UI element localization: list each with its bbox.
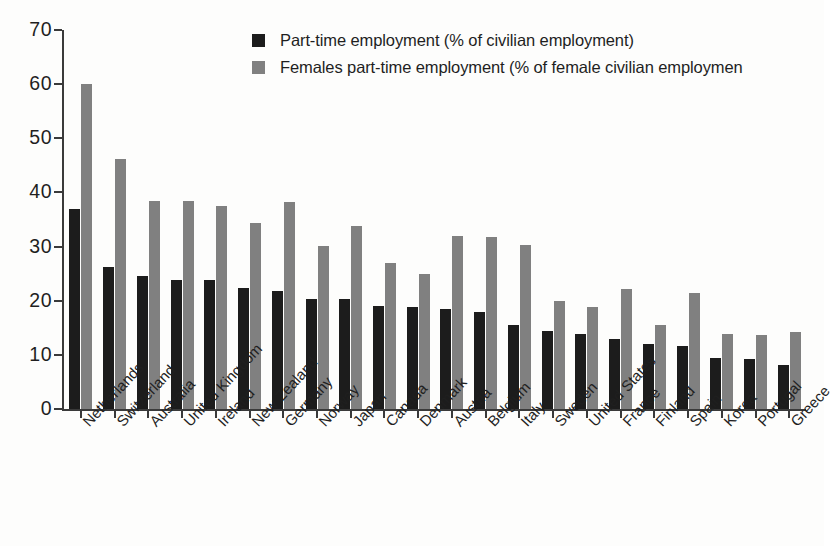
bar-females-part-time bbox=[486, 237, 497, 409]
y-axis-tick-label: 0 bbox=[12, 397, 52, 420]
x-axis-label-cell: Sweden bbox=[536, 414, 570, 544]
x-axis-label-cell: Greece bbox=[772, 414, 806, 544]
bar-group bbox=[199, 30, 233, 409]
bar-group bbox=[165, 30, 199, 409]
bar-group bbox=[671, 30, 705, 409]
x-axis-label-cell: France bbox=[604, 414, 638, 544]
x-axis-label-cell: Japan bbox=[334, 414, 368, 544]
bar-group bbox=[300, 30, 334, 409]
bar-group bbox=[368, 30, 402, 409]
x-axis-label-cell: Belgium bbox=[469, 414, 503, 544]
x-axis-label-cell: Korea bbox=[705, 414, 739, 544]
y-axis-tick-label: 40 bbox=[12, 180, 52, 203]
x-axis-label-cell: Portugal bbox=[739, 414, 773, 544]
x-axis-label-cell: United Kingdom bbox=[165, 414, 199, 544]
x-axis-label-cell: Finland bbox=[637, 414, 671, 544]
x-axis-label-cell: Austria bbox=[435, 414, 469, 544]
bar-females-part-time bbox=[554, 301, 565, 409]
bar-group bbox=[435, 30, 469, 409]
bar-group bbox=[705, 30, 739, 409]
bar-group bbox=[131, 30, 165, 409]
bar-group bbox=[570, 30, 604, 409]
x-axis-label-cell: Switzerland bbox=[98, 414, 132, 544]
y-axis-tick bbox=[54, 191, 62, 193]
plot-area: 010203040506070 bbox=[62, 30, 806, 409]
y-axis-tick bbox=[54, 300, 62, 302]
y-axis-tick-label: 50 bbox=[12, 126, 52, 149]
y-axis-tick-label: 60 bbox=[12, 72, 52, 95]
bar-females-part-time bbox=[385, 263, 396, 409]
y-axis-tick-label: 10 bbox=[12, 343, 52, 366]
x-axis-label-cell: Canada bbox=[368, 414, 402, 544]
bar-females-part-time bbox=[722, 334, 733, 409]
bar-group bbox=[64, 30, 98, 409]
y-axis-tick bbox=[54, 137, 62, 139]
bar-part-time bbox=[69, 209, 80, 409]
y-axis-tick bbox=[54, 246, 62, 248]
bar-females-part-time bbox=[81, 84, 92, 409]
x-axis-labels: NetherlandsSwitzerlandAustraliaUnited Ki… bbox=[64, 414, 806, 544]
y-axis-tick bbox=[54, 408, 62, 410]
bar-group bbox=[739, 30, 773, 409]
x-axis-label-cell: Germany bbox=[266, 414, 300, 544]
bar-group bbox=[536, 30, 570, 409]
bar-group bbox=[266, 30, 300, 409]
bar-group bbox=[401, 30, 435, 409]
bar-group bbox=[604, 30, 638, 409]
bar-group bbox=[503, 30, 537, 409]
x-axis-label-cell: Denmark bbox=[401, 414, 435, 544]
bar-group bbox=[469, 30, 503, 409]
y-axis-tick bbox=[54, 83, 62, 85]
bar-group bbox=[334, 30, 368, 409]
bar-females-part-time bbox=[250, 223, 261, 409]
bar-part-time bbox=[542, 331, 553, 409]
x-axis-label-cell: Ireland bbox=[199, 414, 233, 544]
bar-group bbox=[637, 30, 671, 409]
x-axis-label-cell: Norway bbox=[300, 414, 334, 544]
y-axis-tick-label: 30 bbox=[12, 235, 52, 258]
y-axis-tick bbox=[54, 354, 62, 356]
y-axis-tick bbox=[54, 29, 62, 31]
y-axis-tick-label: 20 bbox=[12, 289, 52, 312]
x-axis-label-cell: Australia bbox=[131, 414, 165, 544]
bar-females-part-time bbox=[351, 226, 362, 409]
bar-group bbox=[98, 30, 132, 409]
y-axis-tick-label: 70 bbox=[12, 18, 52, 41]
x-axis-label-cell: New Zealand bbox=[233, 414, 267, 544]
x-axis-label-cell: Netherlands bbox=[64, 414, 98, 544]
x-axis-label-cell: Spain bbox=[671, 414, 705, 544]
bar-groups bbox=[64, 30, 806, 409]
bar-group bbox=[772, 30, 806, 409]
x-axis-label-cell: Italy bbox=[503, 414, 537, 544]
x-axis-label-cell: United States bbox=[570, 414, 604, 544]
